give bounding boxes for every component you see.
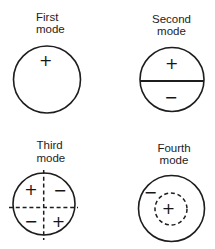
second-mode-label-line1: Second — [152, 13, 191, 25]
second-mode-group: Second mode + − — [140, 13, 204, 112]
third-mode-sign-bottom-right: + — [52, 212, 65, 231]
third-mode-group: Third mode + − − + — [9, 139, 78, 240]
fourth-mode-sign-outer: − — [144, 183, 157, 202]
second-mode-sign-top: + — [165, 54, 178, 73]
fourth-mode-label-line1: Fourth — [157, 142, 190, 154]
modes-diagram: First mode + Second mode + − Third mode … — [0, 0, 215, 249]
third-mode-label-line1: Third — [37, 139, 63, 151]
fourth-mode-label-line2: mode — [160, 154, 189, 166]
third-mode-sign-top-right: − — [53, 181, 66, 200]
first-mode-label-line2: mode — [36, 23, 65, 35]
second-mode-label-line2: mode — [157, 25, 186, 37]
first-mode-label-line1: First — [36, 11, 59, 23]
third-mode-sign-top-left: + — [24, 180, 37, 199]
fourth-mode-sign-inner: + — [162, 199, 175, 218]
vibration-modes-figure: First mode + Second mode + − Third mode … — [0, 0, 215, 249]
first-mode-sign-center: + — [39, 51, 52, 70]
second-mode-sign-bottom: − — [164, 88, 177, 107]
third-mode-label-line2: mode — [37, 152, 66, 164]
third-mode-sign-bottom-left: − — [24, 212, 37, 231]
fourth-mode-group: Fourth mode + − — [139, 142, 205, 242]
first-mode-group: First mode + — [14, 11, 81, 113]
